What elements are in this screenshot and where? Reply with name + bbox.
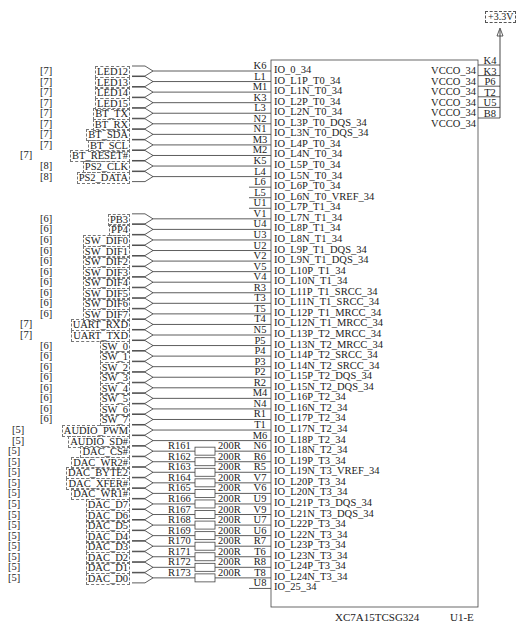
sheet-reference: [5] <box>8 510 20 520</box>
vcco-pin-number: U5 <box>480 98 500 108</box>
vcco-pin-number: K4 <box>480 56 500 66</box>
resistor-value: 200R <box>218 526 241 536</box>
chip-part-number: XC7A15TCSG324 <box>335 612 419 622</box>
sheet-reference: [6] <box>40 393 52 403</box>
io-pin-name: IO_L10P_T1_34 <box>274 266 346 276</box>
pin-number: R6 <box>250 452 270 462</box>
io-pin-name: IO_L6N_T0_VREF_34 <box>274 192 374 202</box>
io-pin-name: IO_L3P_T0_DQS_34 <box>274 118 367 128</box>
sheet-reference: [6] <box>40 256 52 266</box>
pin-number: U8 <box>250 578 270 588</box>
sheet-reference: [7] <box>40 140 52 150</box>
sheet-reference: [5] <box>8 531 20 541</box>
sheet-reference: [6] <box>40 414 52 424</box>
io-pin-name: IO_L7N_T1_34 <box>274 213 342 223</box>
pin-number: R8 <box>250 557 270 567</box>
resistor-value: 200R <box>218 452 241 462</box>
io-pin-name: IO_L16N_T2_34 <box>274 403 348 413</box>
io-pin-name: IO_L5P_T0_34 <box>274 160 341 170</box>
resistor-designator: R170 <box>168 536 191 546</box>
io-pin-name: IO_L7P_T1_34 <box>274 202 341 212</box>
pin-number: L6 <box>250 177 270 187</box>
io-pin-name: IO_L8P_T1_34 <box>274 223 341 233</box>
io-pin-name: IO_L4P_T0_34 <box>274 139 341 149</box>
io-pin-name: IO_L21P_T3_DQS_34 <box>274 498 372 508</box>
resistor-designator: R168 <box>168 515 191 525</box>
pin-number: L1 <box>250 72 270 82</box>
resistor-value: 200R <box>218 536 241 546</box>
pin-number: R5 <box>250 462 270 472</box>
io-pin-name: IO_L18N_T2_34 <box>274 445 348 455</box>
resistor-value: 200R <box>218 505 241 515</box>
io-pin-name: IO_L2P_T0_34 <box>274 97 341 107</box>
vcco-pin-name: VCCO_34 <box>431 77 476 87</box>
pin-number: V6 <box>250 483 270 493</box>
sheet-reference: [6] <box>40 246 52 256</box>
io-pin-name: IO_L13N_T2_MRCC_34 <box>274 340 383 350</box>
sheet-reference: [7] <box>40 98 52 108</box>
io-pin-name: IO_L24P_T3_34 <box>274 561 346 571</box>
vcco-pin-number: K3 <box>480 67 500 77</box>
io-pin-name: IO_L12N_T1_MRCC_34 <box>274 318 383 328</box>
sheet-reference: [8] <box>40 172 52 182</box>
pin-number: L5 <box>250 188 270 198</box>
pin-number: N6 <box>250 441 270 451</box>
pin-number: M3 <box>250 135 270 145</box>
pin-number: T4 <box>250 314 270 324</box>
sheet-reference: [5] <box>8 541 20 551</box>
pin-number: V4 <box>250 272 270 282</box>
io-pin-name: IO_L10N_T1_34 <box>274 276 348 286</box>
resistor-value: 200R <box>218 462 241 472</box>
io-pin-name: IO_L20P_T3_34 <box>274 477 346 487</box>
resistor-value: 200R <box>218 483 241 493</box>
pin-number: P4 <box>250 346 270 356</box>
io-pin-name: IO_0_34 <box>274 65 311 75</box>
sheet-reference: [6] <box>40 309 52 319</box>
pin-number: T8 <box>250 568 270 578</box>
io-pin-name: IO_L9P_T1_DQS_34 <box>274 245 367 255</box>
net-port-label: PS2_DATA <box>77 172 130 184</box>
resistor-value: 200R <box>218 557 241 567</box>
io-pin-name: IO_L15N_T2_DQS_34 <box>274 382 374 392</box>
io-pin-name: IO_L23N_T3_34 <box>274 551 348 561</box>
resistor-value: 200R <box>218 494 241 504</box>
sheet-reference: [5] <box>8 488 20 498</box>
io-pin-name: IO_L19N_T3_VREF_34 <box>274 466 380 476</box>
resistor-value: 200R <box>218 473 241 483</box>
sheet-reference: [6] <box>40 267 52 277</box>
io-pin-name: IO_L19P_T3_34 <box>274 456 346 466</box>
sheet-reference: [6] <box>40 224 52 234</box>
pin-number: U4 <box>250 219 270 229</box>
resistor-designator: R163 <box>168 462 191 472</box>
pin-number: L4 <box>250 167 270 177</box>
resistor-designator: R161 <box>168 441 191 451</box>
io-pin-name: IO_L15P_T2_DQS_34 <box>274 371 372 381</box>
pin-number: M2 <box>250 145 270 155</box>
pin-number: K6 <box>250 61 270 71</box>
sheet-reference: [7] <box>20 330 32 340</box>
pin-number: P2 <box>250 367 270 377</box>
resistor-value: 200R <box>218 547 241 557</box>
pin-number: R7 <box>250 536 270 546</box>
pin-number: V7 <box>250 473 270 483</box>
pin-number: U3 <box>250 230 270 240</box>
vcco-pin-number: P6 <box>480 77 500 87</box>
sheet-reference: [6] <box>40 277 52 287</box>
resistor-designator: R169 <box>168 526 191 536</box>
sheet-reference: [6] <box>40 288 52 298</box>
io-pin-name: IO_L22P_T3_34 <box>274 519 346 529</box>
io-pin-name: IO_L11P_T1_SRCC_34 <box>274 287 377 297</box>
io-pin-name: IO_L14P_T2_SRCC_34 <box>274 350 378 360</box>
pin-number: U7 <box>250 515 270 525</box>
resistor-designator: R162 <box>168 452 191 462</box>
io-pin-name: IO_L9N_T1_DQS_34 <box>274 255 369 265</box>
io-pin-name: IO_L11N_T1_SRCC_34 <box>274 297 379 307</box>
resistor-value: 200R <box>218 515 241 525</box>
pin-number: P5 <box>250 336 270 346</box>
sheet-reference: [5] <box>8 446 20 456</box>
pin-number: T6 <box>250 547 270 557</box>
pin-number: U6 <box>250 526 270 536</box>
io-pin-name: IO_L24N_T3_34 <box>274 572 348 582</box>
io-pin-name: IO_L22N_T3_34 <box>274 530 348 540</box>
io-pin-name: IO_L13P_T2_MRCC_34 <box>274 329 381 339</box>
